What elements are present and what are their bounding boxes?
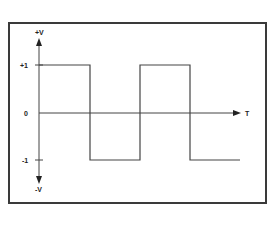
- level-low-label: -1: [22, 157, 28, 164]
- level-zero-label: 0: [24, 110, 28, 117]
- y-axis-down-arrow-icon: [36, 176, 42, 184]
- y-axis-top-label: +V: [35, 29, 44, 36]
- x-axis-right-arrow-icon: [233, 110, 241, 116]
- y-axis-up-arrow-icon: [36, 38, 42, 46]
- y-axis-bottom-label: -V: [35, 186, 42, 193]
- level-high-label: +1: [20, 62, 28, 69]
- x-axis-label: T: [245, 110, 249, 117]
